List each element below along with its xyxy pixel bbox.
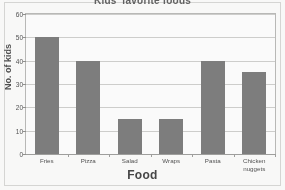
bar bbox=[242, 72, 266, 154]
bar-chart: Kids' favorite foods No. of kids 0102030… bbox=[0, 0, 285, 190]
bar-slot bbox=[234, 14, 276, 154]
x-tick-label: Pasta bbox=[192, 157, 234, 165]
bar-slot bbox=[26, 14, 68, 154]
x-tick-label: Salad bbox=[109, 157, 151, 165]
bar bbox=[159, 119, 183, 154]
bar-slot bbox=[151, 14, 193, 154]
y-tick-label: 10 bbox=[0, 127, 23, 134]
y-tick-label: 50 bbox=[0, 34, 23, 41]
y-tick-label: 60 bbox=[0, 11, 23, 18]
y-axis-title: No. of kids bbox=[3, 31, 13, 103]
y-tick-mark bbox=[23, 154, 26, 155]
bar-slot bbox=[109, 14, 151, 154]
x-tick-label: Fries bbox=[26, 157, 68, 165]
bar bbox=[118, 119, 142, 154]
x-tick-label: Pizza bbox=[68, 157, 110, 165]
x-tick-mark bbox=[275, 154, 276, 157]
y-tick-label: 40 bbox=[0, 57, 23, 64]
bar bbox=[35, 37, 59, 154]
x-tick-label: Wraps bbox=[151, 157, 193, 165]
y-tick-label: 0 bbox=[0, 151, 23, 158]
x-axis-title: Food bbox=[0, 168, 285, 182]
bar bbox=[76, 61, 100, 154]
bar-slot bbox=[192, 14, 234, 154]
y-tick-label: 30 bbox=[0, 81, 23, 88]
bar bbox=[201, 61, 225, 154]
bars-layer bbox=[26, 14, 275, 154]
y-tick-label: 20 bbox=[0, 104, 23, 111]
chart-title: Kids' favorite foods bbox=[0, 0, 285, 8]
bar-slot bbox=[68, 14, 110, 154]
